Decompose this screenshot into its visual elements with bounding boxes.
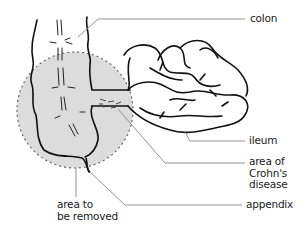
ileum-drawing: [124, 41, 248, 133]
label-appendix: appendix: [246, 199, 293, 211]
label-area-to-be-removed: area to be removed: [57, 199, 118, 222]
leader-ileum: [185, 132, 245, 141]
crohns-surgery-diagram: [0, 0, 308, 230]
label-colon: colon: [250, 13, 277, 25]
label-crohns-area: area of Crohn's disease: [249, 156, 287, 191]
leader-crohns: [118, 109, 245, 163]
leader-colon: [78, 19, 245, 37]
label-ileum: ileum: [249, 135, 277, 147]
